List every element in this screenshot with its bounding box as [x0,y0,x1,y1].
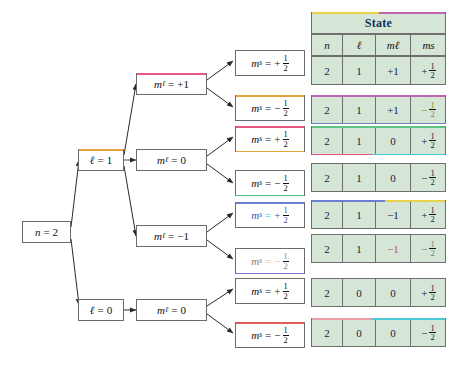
node-ml-zero-p[interactable]: mℓ = 0 [136,149,207,171]
highlight-bar-cyan [372,318,445,320]
node-ms-4-denominator: 2 [283,183,289,193]
node-ms-4-fraction: 1 2 [283,174,289,192]
table-row[interactable]: 2 1 −1 − 1 2 [311,234,446,263]
highlight-bar-blue [236,202,304,204]
node-ms-8-sign: − [274,330,280,341]
node-ml-plus1-symbol: m [154,79,162,90]
node-ms-2-sign: − [274,103,280,114]
highlight-bar-pink [236,126,304,128]
table-header-row: n ℓ mℓ ms [311,34,446,56]
table-header-ml: mℓ [376,35,411,55]
node-ms-3-operator: = [265,134,271,145]
table-cell-ml: 0 [376,127,411,154]
node-ml-zero-s-subscript: ℓ [165,306,168,314]
node-ml-plus1[interactable]: mℓ = +1 [136,73,207,95]
node-ms-6-subscript: s [259,257,262,265]
table-cell-l: 1 [343,57,376,84]
table-header-ms: ms [411,35,446,55]
table-header-l: ℓ [343,35,376,55]
node-l-0[interactable]: ℓ = 0 [78,299,124,321]
node-ms-5-fraction: 1 2 [283,206,289,224]
node-ml-plus1-operator: = [168,79,174,90]
highlight-bar-yellow [385,200,445,202]
node-ms-4[interactable]: ms = − 1 2 [235,170,305,196]
highlight-bar-purple [236,273,304,275]
table-row[interactable]: 2 1 +1 − 1 2 [311,95,446,124]
node-ms-3[interactable]: ms = + 1 2 [235,126,305,152]
highlight-bar-orange [236,151,304,153]
node-ms-7-denominator: 2 [283,291,289,301]
node-l-1[interactable]: ℓ = 1 [78,149,124,171]
node-ml-minus1-subscript: ℓ [162,232,165,240]
node-ms-6[interactable]: ms = − 1 2 [235,248,305,274]
node-ms-3-symbol: m [251,134,259,145]
node-ms-2-fraction: 1 2 [283,99,289,117]
node-l-1-symbol: ℓ [90,155,95,166]
highlight-bar-green [312,126,445,128]
node-ms-1-denominator: 2 [283,63,289,73]
node-ms-1-symbol: m [251,58,259,69]
node-ml-plus1-subscript: ℓ [162,80,165,88]
node-ms-5-operator: = [265,210,271,221]
table-row[interactable]: 2 0 0 + 1 2 [311,278,446,307]
highlight-bar-orange [236,95,304,97]
node-ms-5[interactable]: ms = + 1 2 [235,202,305,228]
node-ms-2[interactable]: ms = − 1 2 [235,95,305,121]
node-ms-5-numerator: 1 [283,206,289,215]
node-ml-zero-s-value: 0 [180,305,186,316]
table-cell-n: 2 [312,279,343,306]
table-cell-ms-fraction: 1 2 [429,240,435,258]
node-ms-4-operator: = [265,178,271,189]
table-cell-l: 1 [343,127,376,154]
node-ms-3-subscript: s [259,135,262,143]
node-ms-7-numerator: 1 [283,282,289,291]
node-ms-6-symbol: m [251,256,259,267]
node-ms-5-subscript: s [259,211,262,219]
figure-canvas: n = 2 ℓ = 1 ℓ = 0 mℓ = +1 mℓ = 0 mℓ = −1… [0,0,455,365]
node-ml-zero-s-symbol: m [157,305,165,316]
node-ml-minus1[interactable]: mℓ = −1 [136,225,207,247]
node-ms-6-denominator: 2 [283,261,289,271]
node-l-1-value: 1 [107,155,113,166]
node-ml-minus1-value: −1 [177,231,189,242]
table-row[interactable]: 2 1 −1 + 1 2 [311,200,446,229]
table-title-state: State [311,12,446,34]
table-cell-ms-fraction: 1 2 [429,101,435,119]
highlight-bar-blue [312,123,445,125]
highlight-bar-pink [312,154,372,156]
highlight-bar-green [236,195,304,197]
table-cell-ml: 0 [376,279,411,306]
table-row[interactable]: 2 1 0 + 1 2 [311,126,446,155]
node-n-2[interactable]: n = 2 [22,221,71,243]
node-ms-4-subscript: s [259,179,262,187]
table-cell-ms: − 1 2 [411,96,446,123]
node-ms-1-sign: + [274,58,280,69]
node-ms-4-numerator: 1 [283,174,289,183]
table-row[interactable]: 2 1 +1 + 1 2 [311,56,446,85]
table-title-label: State [365,16,393,31]
node-ms-5-sign: + [274,210,280,221]
node-n-2-operator: = [43,227,49,238]
node-ms-4-sign: − [274,178,280,189]
highlight-bar-pink [312,318,372,320]
table-cell-ms-fraction: 1 2 [429,324,435,342]
highlight-bar-red [236,322,304,324]
table-cell-ms: + 1 2 [411,279,446,306]
table-cell-n: 2 [312,201,343,228]
highlight-bar-magenta [379,12,446,14]
node-ml-zero-s[interactable]: mℓ = 0 [136,299,207,321]
table-row[interactable]: 2 0 0 − 1 2 [311,318,446,347]
node-ms-8-symbol: m [251,330,259,341]
node-ms-8[interactable]: ms = − 1 2 [235,322,305,348]
table-header-n: n [312,35,343,55]
table-row[interactable]: 2 1 0 − 1 2 [311,163,446,192]
table-cell-l: 0 [343,319,376,346]
node-ms-2-numerator: 1 [283,99,289,108]
node-ml-plus1-value: +1 [177,79,189,90]
node-ms-1[interactable]: ms = + 1 2 [235,50,305,76]
node-ms-8-fraction: 1 2 [283,326,289,344]
node-ms-2-subscript: s [259,104,262,112]
node-l-0-value: 0 [107,305,113,316]
node-ms-7[interactable]: ms = + 1 2 [235,278,305,304]
table-cell-ms-fraction: 1 2 [429,169,435,187]
